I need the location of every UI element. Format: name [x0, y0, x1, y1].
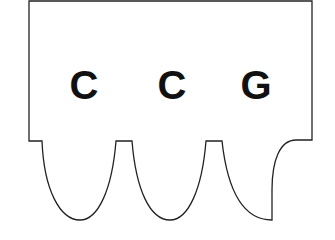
base-letter-1: C: [70, 63, 99, 107]
codon-outline: [29, 1, 312, 220]
base-letter-3: G: [240, 63, 271, 107]
codon-diagram: C C G: [0, 0, 335, 240]
base-letter-2: C: [158, 63, 187, 107]
